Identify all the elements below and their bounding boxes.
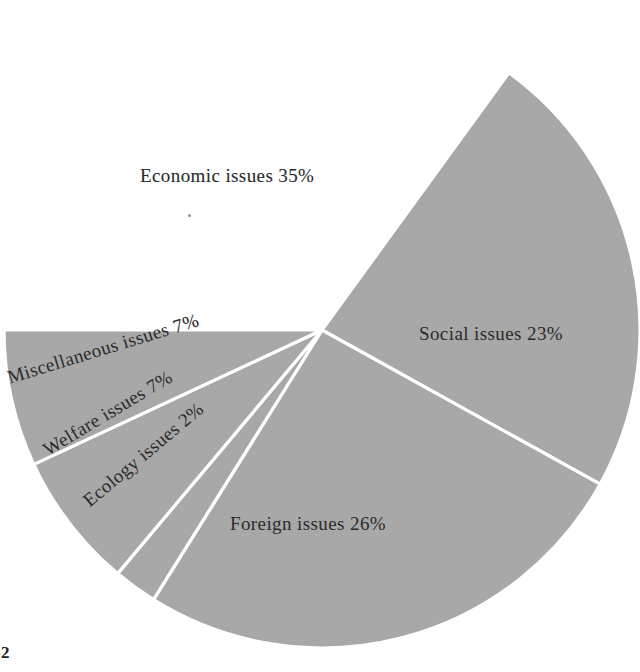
print-speck [188, 214, 191, 217]
slice-label-social-issues: Social issues 23% [419, 323, 563, 345]
slice-label-economic-issues: Economic issues 35% [140, 165, 314, 187]
figure-caption-number: -2 [0, 643, 10, 663]
pie-chart-figure: Economic issues 35% Social issues 23% Fo… [0, 0, 640, 672]
slice-label-foreign-issues: Foreign issues 26% [230, 513, 386, 535]
